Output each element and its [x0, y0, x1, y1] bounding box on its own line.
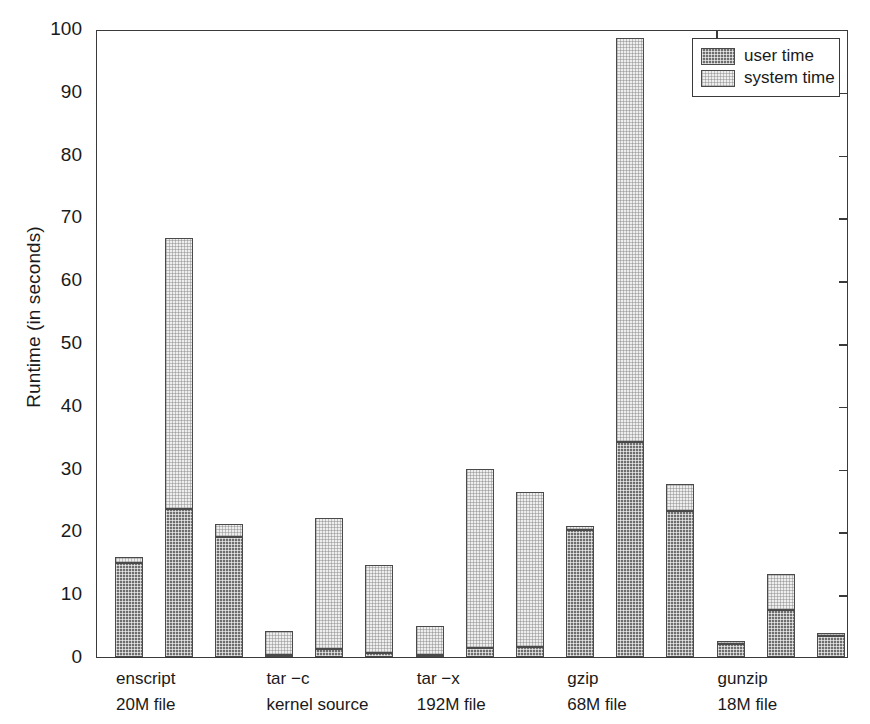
legend-item-user-time: user time — [701, 45, 831, 67]
bar-stack — [666, 484, 694, 657]
chart-legend: user time system time — [692, 38, 840, 97]
x-axis-group-label: enscript20M file — [116, 666, 176, 719]
x-axis-group-label-command: tar −x — [417, 669, 460, 688]
bar-segment-system-time — [215, 524, 243, 537]
bar-stack — [115, 557, 143, 657]
y-axis-tick-label: 30 — [61, 458, 82, 480]
x-axis-group-label: tar −x192M file — [417, 666, 486, 719]
x-axis-group-label-command: enscript — [116, 669, 176, 688]
right-axis-tick-mark — [839, 218, 848, 220]
x-axis-group-label: gzip68M file — [567, 666, 627, 719]
bar-segment-user-time — [767, 610, 795, 657]
bar-stack — [215, 524, 243, 657]
bar-segment-system-time — [466, 469, 494, 647]
bar-segment-user-time — [115, 563, 143, 657]
legend-label-user-time: user time — [744, 46, 814, 66]
chart-figure: Runtime (in seconds) 0102030405060708090… — [0, 0, 870, 724]
bar-stack — [365, 565, 393, 657]
bar-segment-system-time — [315, 518, 343, 649]
bar-segment-system-time — [616, 38, 644, 442]
bar-segment-system-time — [165, 238, 193, 509]
x-axis-group-label-dataset: 192M file — [417, 692, 486, 718]
x-axis-group-label-dataset: 68M file — [567, 692, 627, 718]
bar-stack — [516, 492, 544, 657]
y-axis-tick-label: 70 — [61, 206, 82, 228]
y-axis-tick-label: 40 — [61, 395, 82, 417]
x-axis-group-label: gunzip18M file — [718, 666, 778, 719]
x-axis-group-label-dataset: kernel source — [266, 692, 368, 718]
bar-segment-system-time — [516, 492, 544, 647]
y-axis-tick-label: 100 — [50, 18, 82, 40]
y-axis-tick-label: 50 — [61, 332, 82, 354]
bar-segment-system-time — [416, 626, 444, 656]
bar-segment-user-time — [315, 649, 343, 657]
bar-segment-system-time — [666, 484, 694, 512]
x-axis-group-label-dataset: 20M file — [116, 692, 176, 718]
y-axis-tick-label: 80 — [61, 144, 82, 166]
bar-segment-system-time — [767, 574, 795, 610]
bar-stack — [817, 633, 845, 657]
right-axis-tick-mark — [839, 156, 848, 158]
y-axis-tick-label: 60 — [61, 269, 82, 291]
bar-segment-user-time — [717, 644, 745, 657]
right-axis-tick-mark — [839, 470, 848, 472]
bar-stack — [566, 526, 594, 657]
bar-segment-user-time — [666, 511, 694, 657]
bar-segment-user-time — [365, 653, 393, 657]
y-axis-tick-label: 90 — [61, 81, 82, 103]
y-axis-tick-label: 20 — [61, 520, 82, 542]
right-axis-tick-mark — [839, 532, 848, 534]
bar-segment-system-time — [365, 565, 393, 653]
x-axis-group-label-command: gzip — [567, 669, 598, 688]
bar-stack — [315, 518, 343, 657]
x-axis-group-label: tar −ckernel source — [266, 666, 368, 719]
bar-stack — [265, 631, 293, 657]
y-axis-label: Runtime (in seconds) — [23, 107, 45, 527]
legend-swatch-user-time-icon — [701, 48, 735, 65]
right-axis-tick-mark — [839, 344, 848, 346]
right-axis-tick-mark — [839, 281, 848, 283]
x-axis-group-label-command: tar −c — [266, 669, 309, 688]
bar-segment-user-time — [265, 655, 293, 657]
y-axis-tick-label: 0 — [71, 646, 82, 668]
bar-segment-user-time — [516, 647, 544, 657]
bar-segment-user-time — [566, 530, 594, 657]
right-axis-tick-mark — [839, 407, 848, 409]
bar-segment-user-time — [165, 509, 193, 657]
legend-swatch-system-time-icon — [701, 70, 735, 87]
bar-stack — [616, 38, 644, 657]
bar-segment-user-time — [215, 537, 243, 657]
bar-stack — [466, 469, 494, 657]
bar-segment-user-time — [466, 648, 494, 657]
right-axis-tick-mark — [839, 595, 848, 597]
legend-label-system-time: system time — [744, 68, 835, 88]
right-axis-tick-mark — [839, 93, 848, 95]
x-axis-group-label-dataset: 18M file — [718, 692, 778, 718]
bar-stack — [717, 641, 745, 657]
bar-stack — [416, 626, 444, 657]
y-axis-tick-label: 10 — [61, 583, 82, 605]
bar-stack — [165, 238, 193, 657]
bar-segment-user-time — [616, 442, 644, 657]
bar-segment-system-time — [265, 631, 293, 655]
plot-area — [96, 30, 848, 658]
bar-segment-user-time — [416, 655, 444, 657]
legend-item-system-time: system time — [701, 67, 831, 89]
bar-stack — [767, 574, 795, 657]
x-axis-group-label-command: gunzip — [718, 669, 768, 688]
bar-segment-user-time — [817, 636, 845, 657]
